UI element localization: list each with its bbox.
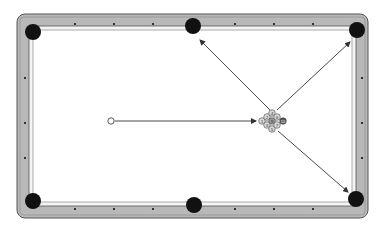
diamond-marker xyxy=(24,77,26,79)
diamond-marker xyxy=(24,157,26,159)
diamond-marker xyxy=(74,23,76,25)
diamond-marker xyxy=(113,208,115,210)
diamond-marker xyxy=(152,23,154,25)
diamond-marker xyxy=(361,77,363,79)
diamond-marker xyxy=(312,208,314,210)
pocket-top-right xyxy=(349,22,365,38)
pocket-bottom-side xyxy=(186,197,202,213)
object-ball-7: 7 xyxy=(274,122,281,129)
table-cloth xyxy=(33,30,352,202)
pocket-top-side xyxy=(185,18,201,34)
object-ball-6: 6 xyxy=(274,114,281,121)
cue-ball xyxy=(108,118,114,124)
object-ball-10: 10 xyxy=(280,118,287,125)
diamond-marker xyxy=(273,23,275,25)
diamond-marker xyxy=(113,23,115,25)
diamond-marker xyxy=(361,157,363,159)
diamond-marker xyxy=(312,23,314,25)
pocket-top-left xyxy=(25,24,41,40)
ball-number: 10 xyxy=(281,119,286,124)
diamond-marker xyxy=(361,122,363,124)
diamond-marker xyxy=(24,122,26,124)
diamond-marker xyxy=(152,208,154,210)
pocket-bottom-right xyxy=(348,191,364,207)
diamond-marker xyxy=(74,208,76,210)
diamond-marker xyxy=(234,23,236,25)
table xyxy=(17,14,368,218)
diamond-marker xyxy=(273,208,275,210)
diamond-marker xyxy=(234,208,236,210)
pool-table-diagram: 1234956710 xyxy=(0,0,387,226)
pocket-bottom-left xyxy=(25,193,41,209)
table-canvas: 1234956710 xyxy=(0,0,387,226)
